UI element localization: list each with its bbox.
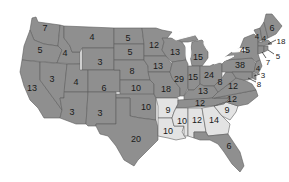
label-la: 10 (163, 126, 173, 136)
label-al: 12 (192, 115, 202, 125)
label-ky: 13 (198, 86, 208, 96)
lake-michigan (186, 44, 191, 60)
label-fl: 6 (226, 141, 231, 151)
label-nh: 4 (262, 34, 267, 43)
label-ny: 45 (240, 45, 250, 55)
label-ms: 10 (177, 116, 187, 126)
label-wa: 7 (42, 23, 47, 33)
label-sd: 5 (127, 47, 132, 57)
label-ma: 18 (277, 37, 286, 46)
label-me: 6 (269, 23, 274, 33)
label-id: 4 (62, 48, 67, 58)
label-wy: 3 (97, 57, 102, 67)
label-wv: 8 (217, 77, 222, 87)
state-fl[interactable] (194, 132, 244, 172)
label-mo: 18 (161, 84, 171, 94)
label-ia: 13 (153, 61, 163, 71)
label-ri: 5 (276, 52, 281, 61)
label-mt: 4 (89, 32, 94, 42)
label-mn: 12 (149, 40, 159, 50)
label-il: 29 (174, 74, 184, 84)
us-map: 7 5 13 4 3 4 3 4 3 6 3 5 5 8 10 10 20 12… (0, 0, 289, 182)
label-ks: 10 (131, 83, 141, 93)
label-nd: 5 (125, 33, 130, 43)
label-in: 15 (188, 72, 198, 82)
label-or: 5 (37, 45, 42, 55)
state-ri[interactable] (264, 46, 268, 52)
label-ga: 14 (209, 115, 219, 125)
label-ca: 13 (27, 83, 37, 93)
label-nc: 12 (227, 94, 237, 104)
label-md: 8 (257, 80, 262, 89)
label-ok: 10 (141, 102, 151, 112)
label-tn: 12 (195, 98, 205, 108)
label-va: 12 (228, 81, 238, 91)
label-nm: 3 (97, 108, 102, 118)
label-nv: 3 (49, 74, 54, 84)
label-ct: 7 (266, 58, 271, 67)
state-ct[interactable] (258, 46, 264, 54)
label-ar: 9 (165, 105, 170, 115)
label-pa: 38 (235, 60, 245, 70)
label-ne: 8 (129, 66, 134, 76)
label-ut: 4 (73, 77, 78, 87)
label-tx: 20 (131, 134, 141, 144)
label-de: 3 (261, 71, 266, 80)
label-vt: 4 (255, 32, 260, 41)
label-mi: 15 (193, 52, 203, 62)
label-sc: 9 (224, 105, 229, 115)
label-co: 6 (101, 83, 106, 93)
label-az: 3 (69, 107, 74, 117)
label-wi: 13 (170, 47, 180, 57)
leader-ri (268, 50, 274, 54)
label-oh: 24 (204, 70, 214, 80)
